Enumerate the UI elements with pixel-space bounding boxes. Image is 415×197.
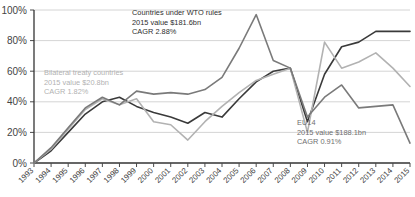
x-axis-tick-label: 2014 bbox=[375, 166, 394, 185]
line-chart: 100%80%60%40%20%0% 199319941995199619971… bbox=[0, 0, 415, 197]
x-axis-tick-label: 1997 bbox=[85, 166, 104, 185]
x-axis-tick-label: 2010 bbox=[307, 166, 326, 185]
x-axis-tick-label: 2003 bbox=[187, 166, 206, 185]
x-axis-tick-label: 2004 bbox=[204, 166, 223, 185]
x-axis-tick-label: 2000 bbox=[136, 166, 155, 185]
y-axis-tick-label: 40% bbox=[7, 96, 27, 107]
x-axis-tick-label: 2001 bbox=[153, 166, 172, 185]
x-axis-tick-label: 2002 bbox=[170, 166, 189, 185]
x-axis-tick-label: 2007 bbox=[256, 166, 275, 185]
series-line bbox=[34, 42, 410, 163]
axis-lines bbox=[34, 10, 410, 163]
data-series bbox=[34, 15, 410, 163]
x-axis-tick-label: 2012 bbox=[341, 166, 360, 185]
x-axis-tick-label: 2006 bbox=[239, 166, 258, 185]
x-axis-tick-labels: 1993199419951996199719981999200020012002… bbox=[16, 166, 411, 185]
x-axis-tick-label: 1993 bbox=[16, 166, 35, 185]
x-axis-tick-label: 2015 bbox=[392, 166, 411, 185]
gridlines bbox=[34, 10, 410, 132]
x-axis-tick-label: 2011 bbox=[325, 166, 344, 185]
y-axis-tick-labels: 100%80%60%40%20%0% bbox=[1, 5, 27, 169]
y-axis-tick-label: 80% bbox=[7, 35, 27, 46]
y-axis-tick-label: 20% bbox=[7, 127, 27, 138]
x-axis-tick-label: 1996 bbox=[68, 166, 87, 185]
x-axis-tick-label: 1995 bbox=[51, 166, 70, 185]
series-line bbox=[34, 15, 410, 163]
x-axis-tick-label: 1999 bbox=[119, 166, 138, 185]
chart-canvas: 100%80%60%40%20%0% 199319941995199619971… bbox=[0, 0, 415, 197]
series-line bbox=[34, 31, 410, 163]
y-axis-tick-label: 60% bbox=[7, 66, 27, 77]
y-axis-tick-label: 0% bbox=[13, 158, 28, 169]
x-axis-tick-label: 2013 bbox=[358, 166, 377, 185]
x-axis-tick-label: 1994 bbox=[34, 166, 53, 185]
x-axis-tick-label: 2009 bbox=[290, 166, 309, 185]
x-axis-tick-label: 1998 bbox=[102, 166, 121, 185]
y-axis-tick-label: 100% bbox=[1, 5, 27, 16]
x-axis-tick-label: 2008 bbox=[273, 166, 292, 185]
x-axis-tick-label: 2005 bbox=[222, 166, 241, 185]
